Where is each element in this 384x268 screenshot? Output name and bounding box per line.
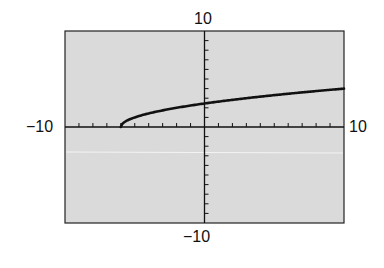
graph-window [0, 0, 384, 268]
